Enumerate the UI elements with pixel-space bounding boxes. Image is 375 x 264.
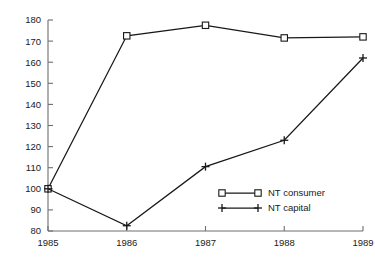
y-tick-label: 170 — [25, 36, 41, 47]
data-point-square — [124, 33, 130, 39]
y-tick-label: 110 — [26, 162, 41, 173]
legend-label: NT capital — [268, 202, 311, 213]
x-tick-label: 1987 — [195, 237, 216, 248]
x-tick-label: 1989 — [352, 237, 373, 248]
series-line-2 — [48, 58, 363, 226]
data-point-square — [202, 22, 208, 28]
line-chart: 8090100110120130140150160170180198519861… — [0, 0, 375, 264]
y-tick-label: 80 — [30, 225, 41, 236]
data-point-square — [360, 34, 366, 40]
legend-square-marker-icon — [219, 190, 225, 196]
data-point-square — [281, 35, 287, 41]
x-tick-label: 1988 — [274, 237, 295, 248]
x-tick-label: 1985 — [37, 237, 58, 248]
y-tick-label: 160 — [25, 57, 41, 68]
y-tick-label: 100 — [25, 183, 41, 194]
chart-plot-area: 8090100110120130140150160170180198519861… — [0, 0, 375, 264]
y-tick-label: 180 — [25, 14, 41, 25]
y-tick-label: 140 — [25, 99, 41, 110]
legend-square-marker-icon — [255, 190, 261, 196]
y-tick-label: 90 — [30, 204, 41, 215]
y-tick-label: 130 — [25, 120, 41, 131]
y-tick-label: 120 — [25, 141, 41, 152]
y-tick-label: 150 — [25, 78, 41, 89]
legend-label: NT consumer — [268, 187, 325, 198]
x-tick-label: 1986 — [116, 237, 137, 248]
